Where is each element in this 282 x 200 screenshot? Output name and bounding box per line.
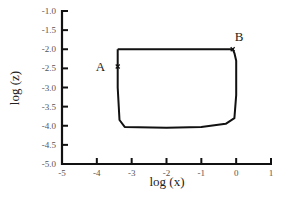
x-tick-label: -3 bbox=[128, 168, 136, 178]
y-tick-label: -4.0 bbox=[42, 121, 57, 131]
cycle-curve bbox=[118, 49, 237, 127]
y-tick-label: -2.5 bbox=[42, 63, 57, 73]
y-tick-label: -5.0 bbox=[42, 159, 57, 169]
chart: -1.0-1.5-2.0-2.5-3.0-3.5-4.0-4.5-5.0 -5-… bbox=[0, 0, 282, 200]
x-axis-title: log (x) bbox=[149, 174, 184, 189]
point-label-b: B bbox=[235, 29, 244, 44]
y-tick-label: -3.5 bbox=[42, 102, 57, 112]
y-tick-label: -1.0 bbox=[42, 6, 57, 16]
x-tick-label: -1 bbox=[198, 168, 206, 178]
x-tick-label: 0 bbox=[234, 168, 239, 178]
y-ticks: -1.0-1.5-2.0-2.5-3.0-3.5-4.0-4.5-5.0 bbox=[42, 6, 68, 169]
x-tick-label: 1 bbox=[269, 168, 274, 178]
y-tick-label: -3.0 bbox=[42, 83, 57, 93]
x-tick-label: -4 bbox=[93, 168, 101, 178]
point-label-a: A bbox=[96, 59, 106, 74]
y-tick-label: -1.5 bbox=[42, 25, 57, 35]
x-tick-label: -5 bbox=[58, 168, 66, 178]
y-axis-title: log (z) bbox=[7, 71, 22, 105]
y-tick-label: -4.5 bbox=[42, 140, 57, 150]
y-tick-label: -2.0 bbox=[42, 44, 57, 54]
